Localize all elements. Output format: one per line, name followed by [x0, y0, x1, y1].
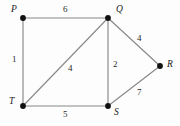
weighted-graph-figure: 6142457 PQRST	[0, 0, 180, 126]
node-dot-s	[105, 103, 111, 109]
edge-weight-q-s: 2	[113, 60, 118, 69]
edge-weight-s-r: 7	[137, 88, 142, 97]
node-label-t: T	[9, 97, 14, 107]
edge-weight-p-q: 6	[63, 5, 68, 14]
edge-weight-p-t: 1	[12, 55, 17, 64]
node-label-q: Q	[116, 5, 123, 15]
node-label-p: P	[11, 5, 17, 15]
edge-weight-q-r: 4	[137, 34, 142, 43]
edge-weight-t-s: 5	[63, 110, 68, 119]
edge-weight-t-q: 4	[68, 64, 73, 73]
node-dot-r	[157, 63, 163, 69]
edge-s-r	[108, 66, 160, 106]
node-label-r: R	[167, 60, 173, 70]
node-dot-p	[20, 15, 26, 21]
node-dot-t	[20, 103, 26, 109]
node-dot-q	[105, 15, 111, 21]
node-label-s: S	[114, 108, 119, 118]
edge-t-q	[23, 18, 108, 106]
graph-canvas	[0, 0, 180, 126]
